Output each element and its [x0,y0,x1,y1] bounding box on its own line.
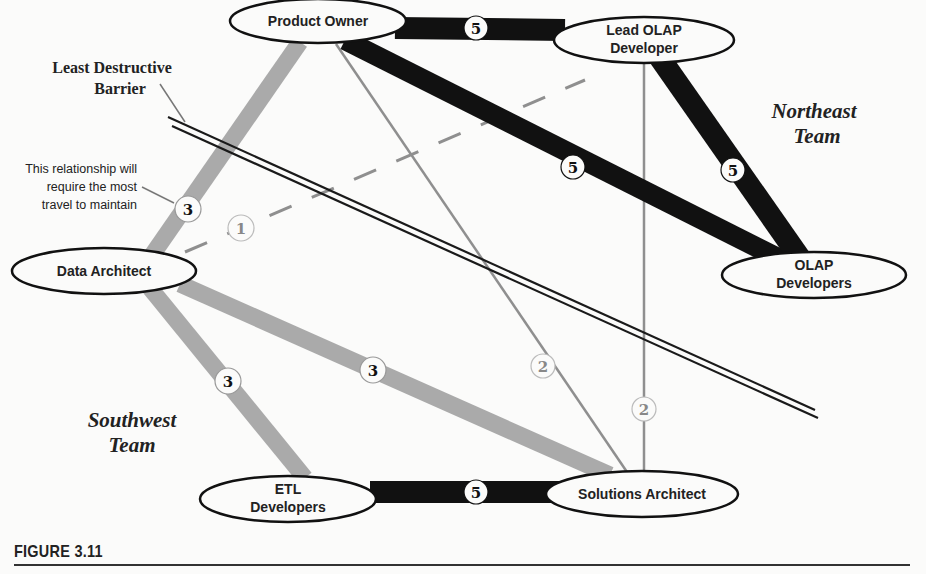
node-lead-olap-developer[interactable]: Lead OLAP Developer [554,17,734,63]
node-etl-developers[interactable]: ETL Developers [200,476,376,522]
team-label-northeast: Team [793,124,840,148]
node-product-owner[interactable]: Product Owner [230,0,406,43]
svg-text:5: 5 [568,159,578,177]
node-label: ETL [275,481,302,497]
node-label: Developers [250,499,326,515]
node-label: Lead OLAP [606,22,681,38]
travel-note: This relationship will [25,162,137,176]
weight-badge-etl-sa: 5 [464,480,488,504]
team-label-southwest: Southwest [88,408,178,432]
team-label-northeast: Northeast [770,99,857,123]
team-label-southwest: Team [108,433,155,457]
svg-text:3: 3 [183,201,193,219]
edge-data-architect-solutions-architect [180,284,610,475]
node-label: Developers [776,275,852,291]
caption-rule [14,564,910,566]
node-label: Solutions Architect [578,486,706,502]
team-relationship-diagram: Product Owner Lead OLAP Developer OLAP D… [0,0,926,574]
barrier-label: Least Destructive [52,59,172,76]
weight-badge-lead-sa: 2 [632,397,656,421]
weight-badge-lead-olap: 5 [721,158,745,182]
svg-text:5: 5 [728,162,738,180]
weight-badge-da-etl: 3 [215,368,241,394]
weight-badge-da-sa: 3 [360,357,386,383]
svg-text:5: 5 [471,20,481,38]
node-data-architect[interactable]: Data Architect [12,248,196,294]
note-leader-line [142,187,174,203]
node-label: Data Architect [57,263,152,279]
svg-text:3: 3 [223,373,233,391]
weight-badge-da-lead: 1 [228,215,254,241]
barrier-label: Barrier [94,80,146,97]
weight-badge-po-olap: 5 [561,155,585,179]
svg-text:2: 2 [639,401,649,419]
barrier-leader-line [160,84,185,122]
weight-badge-po-lead: 5 [464,16,488,40]
weight-badge-po-da: 3 [175,196,201,222]
weight-badge-po-sa: 2 [531,354,555,378]
svg-text:3: 3 [368,362,378,380]
travel-note: travel to maintain [42,198,137,212]
node-olap-developers[interactable]: OLAP Developers [722,252,906,298]
node-label: OLAP [795,257,834,273]
node-label: Product Owner [268,13,369,29]
svg-text:5: 5 [471,484,481,502]
node-label: Developer [610,40,678,56]
svg-text:2: 2 [538,358,548,376]
travel-note: require the most [47,180,138,194]
svg-text:1: 1 [236,220,246,238]
node-solutions-architect[interactable]: Solutions Architect [546,471,738,517]
figure-caption: FIGURE 3.11 [14,542,103,562]
